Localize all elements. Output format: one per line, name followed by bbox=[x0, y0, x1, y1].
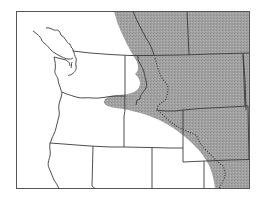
california-coast bbox=[48, 143, 59, 189]
california-nevada-border bbox=[92, 146, 101, 194]
coastline bbox=[33, 28, 76, 189]
oregon-south-border bbox=[50, 143, 124, 147]
vancouver-island-coast bbox=[33, 31, 73, 59]
range-shading bbox=[104, 11, 250, 189]
range-map bbox=[0, 0, 264, 211]
strait-juan-de-fuca bbox=[54, 57, 70, 66]
washington-coast bbox=[54, 57, 62, 92]
bc-mainland-coast bbox=[46, 28, 73, 51]
idaho-south-border bbox=[124, 147, 183, 148]
oregon-coast bbox=[50, 92, 62, 143]
